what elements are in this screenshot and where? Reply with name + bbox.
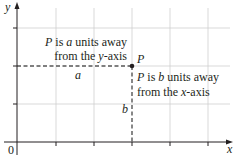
distance-a-label: a <box>75 68 81 82</box>
coordinate-plane-diagram: y x 0 P a b P is a units away from the y… <box>0 0 234 156</box>
y-axis-label: y <box>4 0 11 14</box>
annotation-b-line1: P is b units away <box>136 70 219 84</box>
point-p <box>130 64 135 69</box>
y-axis-arrow-icon <box>15 2 20 9</box>
origin-label: 0 <box>8 143 14 156</box>
x-axis-label: x <box>226 142 233 156</box>
annotation-a-line1: P is a units away <box>44 35 127 49</box>
point-label: P <box>136 52 145 66</box>
distance-b-label: b <box>122 102 128 116</box>
annotation-b-line2: from the x-axis <box>137 85 210 99</box>
annotation-a-line2: from the y-axis <box>54 49 127 63</box>
